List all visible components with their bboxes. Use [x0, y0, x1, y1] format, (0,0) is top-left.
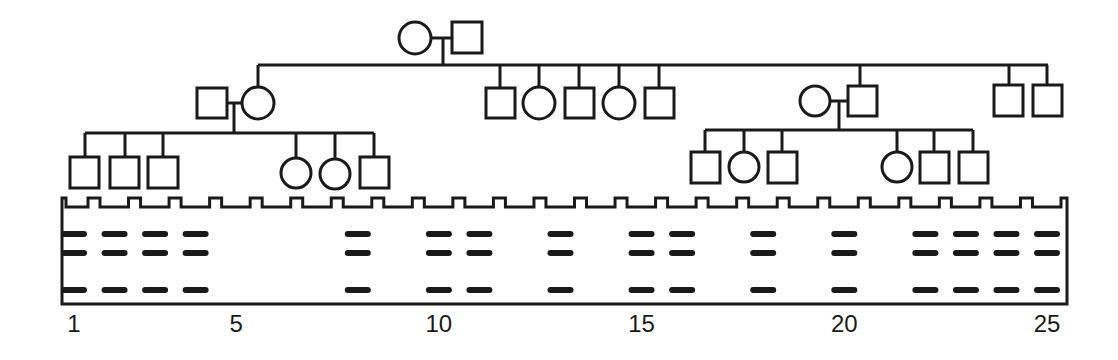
individual-III-1-male: [70, 157, 99, 188]
gel-band-lane-2-lower: [102, 287, 128, 293]
gel-band-lane-18-lower: [750, 287, 776, 293]
gel-band-lane-20-middle: [831, 250, 857, 256]
gel-band-lane-24-middle: [993, 250, 1019, 256]
lane-label-15: 15: [628, 312, 655, 336]
gel-band-lane-11-middle: [466, 250, 492, 256]
individual-I-2-male: [452, 22, 482, 53]
gel-band-lane-1-upper: [61, 231, 87, 237]
gel-band-lane-4-upper: [183, 231, 209, 237]
gel-band-lane-15-upper: [629, 231, 655, 237]
gel-band-lane-10-middle: [426, 250, 452, 256]
gel-band-lane-13-upper: [548, 231, 574, 237]
gel-band-lane-20-upper: [831, 231, 857, 237]
individual-III-8-female: [729, 152, 759, 182]
lane-label-10: 10: [426, 312, 453, 336]
pedigree: [70, 22, 1062, 189]
gel-band-lane-11-lower: [466, 287, 492, 293]
individual-III-3-male: [148, 157, 178, 188]
pedigree-gel-diagram: 1510152025: [0, 0, 1118, 360]
gel-band-lane-8-middle: [345, 250, 371, 256]
individual-III-10-female: [882, 152, 912, 182]
gel-band-lane-23-middle: [953, 250, 979, 256]
gel-band-lane-2-middle: [102, 250, 128, 256]
individual-II-7-male: [645, 88, 674, 118]
individual-II-9-male: [848, 86, 877, 116]
individual-II-8-female: [800, 86, 830, 116]
diagram-svg: [0, 0, 1118, 360]
gel-band-lane-15-middle: [629, 250, 655, 256]
gel-band-lane-10-lower: [426, 287, 452, 293]
individual-II-2-female: [242, 87, 274, 119]
gel-band-lane-24-upper: [993, 231, 1019, 237]
individual-III-5-female: [320, 159, 350, 189]
generation-3-left: [70, 133, 389, 189]
individual-II-10-male: [994, 85, 1023, 116]
individual-III-12-male: [959, 152, 988, 183]
gel-bands: [61, 231, 1060, 293]
individual-III-6-male: [360, 157, 389, 188]
generation-1: [258, 22, 1048, 65]
gel-band-lane-20-lower: [831, 287, 857, 293]
gel-band-lane-3-lower: [142, 287, 168, 293]
gel-band-lane-3-middle: [142, 250, 168, 256]
gel-band-lane-23-lower: [953, 287, 979, 293]
gel-band-lane-16-upper: [669, 231, 695, 237]
gel-band-lane-24-lower: [993, 287, 1019, 293]
gel-band-lane-1-lower: [61, 287, 87, 293]
individual-II-5-male: [565, 88, 594, 118]
lane-label-5: 5: [229, 312, 242, 336]
generation-2: [197, 65, 1062, 133]
lane-label-20: 20: [831, 312, 858, 336]
individual-II-11-male: [1033, 85, 1062, 116]
gel-band-lane-11-upper: [466, 231, 492, 237]
lane-label-25: 25: [1034, 312, 1061, 336]
gel-band-lane-8-upper: [345, 231, 371, 237]
gel-band-lane-8-lower: [345, 287, 371, 293]
individual-II-3-male: [486, 88, 515, 118]
gel-band-lane-22-middle: [912, 250, 938, 256]
gel-band-lane-16-middle: [669, 250, 695, 256]
gel-band-lane-3-upper: [142, 231, 168, 237]
gel-band-lane-13-lower: [548, 287, 574, 293]
gel-band-lane-15-lower: [629, 287, 655, 293]
gel-band-lane-22-lower: [912, 287, 938, 293]
gel-band-lane-23-upper: [953, 231, 979, 237]
gel-band-lane-18-upper: [750, 231, 776, 237]
individual-I-1-female: [399, 22, 431, 54]
individual-III-7-male: [691, 152, 720, 183]
individual-II-1-male: [197, 88, 227, 118]
gel-band-lane-4-lower: [183, 287, 209, 293]
gel-band-lane-22-upper: [912, 231, 938, 237]
individual-III-2-male: [110, 157, 139, 188]
lane-label-1: 1: [67, 312, 80, 336]
individual-II-6-female: [603, 87, 635, 119]
gel-band-lane-13-middle: [548, 250, 574, 256]
gel-band-lane-4-middle: [183, 250, 209, 256]
gel-band-lane-25-middle: [1034, 250, 1060, 256]
gel-band-lane-18-middle: [750, 250, 776, 256]
gel-band-lane-2-upper: [102, 231, 128, 237]
individual-III-9-male: [768, 152, 797, 183]
individual-III-11-male: [920, 152, 949, 183]
generation-3-right: [691, 130, 988, 183]
gel-band-lane-10-upper: [426, 231, 452, 237]
gel-band-lane-25-lower: [1034, 287, 1060, 293]
individual-III-4-female: [281, 158, 311, 188]
individual-II-4-female: [523, 87, 555, 119]
gel: [61, 198, 1067, 304]
gel-band-lane-25-upper: [1034, 231, 1060, 237]
gel-band-lane-1-middle: [61, 250, 87, 256]
gel-band-lane-16-lower: [669, 287, 695, 293]
